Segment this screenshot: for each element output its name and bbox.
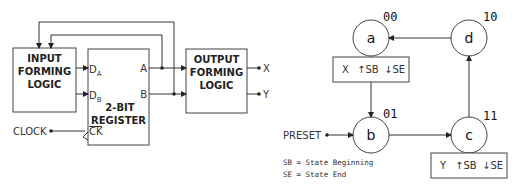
preset-label: PRESET — [283, 130, 322, 141]
state-b: b 01 — [353, 107, 397, 153]
svg-text:X: X — [342, 64, 349, 75]
input-forming-logic-block: INPUT FORMING LOGIC — [13, 48, 76, 112]
output-x-label: X — [263, 63, 270, 74]
svg-text:2-BIT: 2-BIT — [105, 102, 134, 113]
svg-text:10: 10 — [483, 10, 497, 24]
svg-text:A: A — [140, 63, 147, 74]
clock-label: CLOCK — [13, 126, 47, 137]
svg-text:↑SB: ↑SB — [455, 160, 477, 171]
svg-text:OUTPUT: OUTPUT — [194, 54, 240, 65]
svg-text:↑SB: ↑SB — [357, 64, 379, 75]
svg-text:LOGIC: LOGIC — [200, 80, 234, 91]
svg-text:B: B — [140, 89, 147, 100]
output-forming-logic-block: OUTPUT FORMING LOGIC — [186, 49, 247, 113]
state-a: a 00 — [353, 10, 397, 56]
svg-text:00: 00 — [383, 10, 397, 24]
svg-text:FORMING: FORMING — [18, 66, 71, 77]
svg-text:b: b — [367, 127, 376, 143]
state-transitions — [325, 38, 469, 137]
action-box-c: Y ↑SB ↓SE — [431, 153, 507, 178]
output-y-terminal — [257, 92, 261, 96]
svg-text:FORMING: FORMING — [190, 67, 243, 78]
svg-text:Y: Y — [439, 160, 447, 171]
svg-text:INPUT: INPUT — [27, 53, 62, 64]
svg-text:LOGIC: LOGIC — [28, 79, 62, 90]
state-d: d 10 — [451, 10, 497, 56]
svg-text:11: 11 — [483, 109, 497, 123]
legend-se: SE = State End — [283, 170, 346, 179]
clock-terminal — [49, 129, 53, 133]
output-y-label: Y — [262, 89, 270, 100]
state-c: c 11 — [451, 109, 497, 153]
preset-terminal — [325, 133, 329, 137]
output-x-terminal — [257, 66, 261, 70]
diagram-canvas: INPUT FORMING LOGIC DA DB A B 2-BIT REGI… — [0, 0, 518, 188]
legend-sb: SB = State Beginning — [283, 158, 373, 167]
svg-text:↓SE: ↓SE — [384, 64, 405, 75]
action-box-a: X ↑SB ↓SE — [333, 57, 409, 82]
svg-text:01: 01 — [383, 107, 397, 121]
svg-text:a: a — [367, 30, 376, 46]
svg-text:REGISTER: REGISTER — [91, 115, 146, 126]
svg-text:d: d — [465, 30, 474, 46]
svg-text:↓SE: ↓SE — [482, 160, 503, 171]
two-bit-register-block: DA DB A B 2-BIT REGISTER CK — [83, 49, 149, 145]
svg-text:CK: CK — [89, 126, 103, 137]
svg-text:c: c — [465, 127, 473, 143]
